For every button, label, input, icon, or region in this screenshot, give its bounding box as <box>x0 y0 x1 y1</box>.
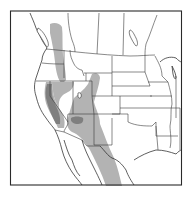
great-salt-lake <box>78 93 81 98</box>
range-map <box>0 0 183 197</box>
